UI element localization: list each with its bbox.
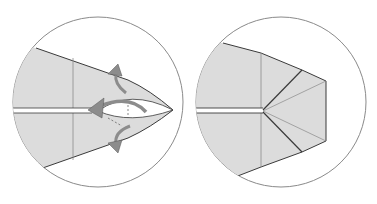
origami-diagram (0, 0, 377, 204)
diagram-canvas (0, 0, 377, 204)
step-1-view (0, 17, 183, 187)
step-2-view (180, 17, 366, 187)
